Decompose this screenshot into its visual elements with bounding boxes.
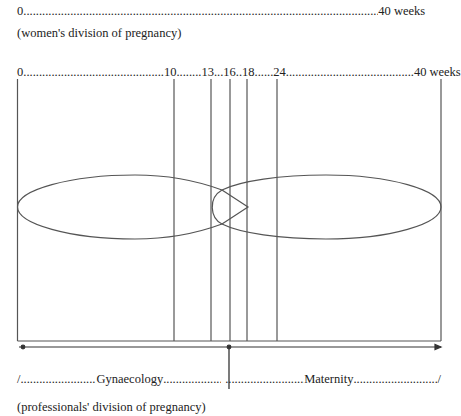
left-dots: .......................... bbox=[20, 373, 96, 386]
right-dots: .............................. bbox=[353, 373, 437, 386]
gynaecology-ellipse-outline bbox=[18, 175, 223, 239]
mid-right-dots: .......................... bbox=[225, 373, 304, 386]
gynaecology-notch bbox=[222, 190, 248, 224]
gynaecology-label: Gynaecology bbox=[96, 372, 163, 386]
arrow-head bbox=[435, 345, 441, 350]
end-mark: / bbox=[437, 372, 440, 386]
mid-left-dots: ........................ bbox=[163, 373, 221, 386]
professional-division-labels: /..........................Gynaecology..… bbox=[17, 373, 441, 386]
professional-division-caption: (professionals' division of pregnancy) bbox=[17, 401, 206, 414]
arrow-start-dot bbox=[21, 345, 25, 349]
maternity-label: Maternity bbox=[304, 372, 353, 386]
